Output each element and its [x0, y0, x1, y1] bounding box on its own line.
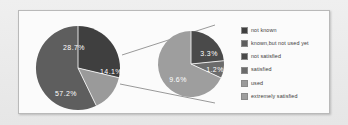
legend-item-used[interactable]: used: [241, 77, 329, 90]
legend-swatch-icon: [241, 93, 248, 100]
legend-item-label: used: [251, 81, 263, 86]
legend-item-label: not known: [251, 28, 276, 33]
legend-swatch-icon: [241, 80, 248, 87]
secondary-pie: [158, 31, 224, 97]
legend-item-extremely-satisfied[interactable]: extremely satisfied: [241, 90, 329, 103]
legend-item-not-satisfied[interactable]: not satisfied: [241, 50, 329, 63]
chart-screenshot: 28.7% 14.1% 57.2% 3.3% 1.2% 9.6: [0, 0, 348, 125]
legend-item-satisfied[interactable]: satisfied: [241, 64, 329, 77]
pie-slice-not-satisfied[interactable]: [191, 31, 224, 64]
slice-label-14-1: 14.1%: [100, 68, 122, 75]
legend-swatch-icon: [241, 53, 248, 60]
chart-frame: 28.7% 14.1% 57.2% 3.3% 1.2% 9.6: [18, 10, 330, 114]
legend-item-label: satisfied: [251, 67, 272, 72]
legend-swatch-icon: [241, 40, 248, 47]
slice-label-57-2: 57.2%: [55, 90, 77, 97]
legend-item-label: extremely satisfied: [251, 94, 298, 99]
legend-swatch-icon: [241, 27, 248, 34]
slice-label-1-2: 1.2%: [206, 66, 224, 73]
legend-item-known-but-not-used-yet[interactable]: known,but not used yet: [241, 37, 329, 50]
slice-label-9-6: 9.6%: [169, 76, 187, 83]
legend-item-not-known[interactable]: not known: [241, 24, 329, 37]
chart-legend: not known known,but not used yet not sat…: [241, 24, 329, 103]
legend-swatch-icon: [241, 67, 248, 74]
legend-item-label: not satisfied: [251, 54, 281, 59]
slice-label-28-7: 28.7%: [63, 44, 85, 51]
legend-item-label: known,but not used yet: [251, 41, 309, 46]
slice-label-3-3: 3.3%: [200, 50, 218, 57]
